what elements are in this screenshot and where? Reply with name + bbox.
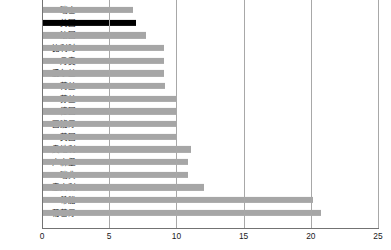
bar [43,7,133,13]
bar-chart: 瑞士美国法国比利时丹麦爱尔兰荷兰芬兰德国西班牙英国奥地利卢森堡瑞典意大利希腊葡萄… [0,0,391,250]
x-tick-label-25: 25 [373,231,382,241]
bar-row: 比利时 [0,42,391,55]
bar [43,159,188,165]
bar [43,32,146,38]
gridline-10 [176,0,177,228]
bar-row: 德国 [0,105,391,118]
gridline-5 [109,0,110,228]
bar-row: 法国 [0,29,391,42]
bar-rows: 瑞士美国法国比利时丹麦爱尔兰荷兰芬兰德国西班牙英国奥地利卢森堡瑞典意大利希腊葡萄… [0,0,391,228]
y-axis-line [42,0,43,228]
bar [43,184,204,190]
gridline-25 [378,0,379,228]
bar-row: 瑞士 [0,4,391,17]
bar-row: 英国 [0,130,391,143]
bar-row: 西班牙 [0,118,391,131]
bar [43,197,313,203]
bar-row: 葡萄牙 [0,206,391,219]
x-tick-label-15: 15 [239,231,248,241]
bar-row: 意大利 [0,181,391,194]
gridline-20 [311,0,312,228]
bar [43,45,164,51]
x-tick-label-5: 5 [107,231,112,241]
x-tick-label-0: 0 [40,231,45,241]
x-axis-tick-labels: 0510152025 [0,231,391,247]
bar-row: 爱尔兰 [0,67,391,80]
bar [43,146,191,152]
bar-row: 希腊 [0,194,391,207]
x-axis-line [42,228,379,229]
x-tick-label-10: 10 [172,231,181,241]
bar [43,210,321,216]
x-tick-label-20: 20 [306,231,315,241]
bar-row: 美国 [0,16,391,29]
bar-row: 瑞典 [0,168,391,181]
bar-row: 卢森堡 [0,156,391,169]
bar-row: 荷兰 [0,80,391,93]
bar-row: 芬兰 [0,92,391,105]
bar-row: 丹麦 [0,54,391,67]
bar-highlighted [43,20,136,26]
bar [43,58,164,64]
bar [43,172,188,178]
bar [43,83,165,89]
bar-row: 奥地利 [0,143,391,156]
bar [43,70,164,76]
gridline-15 [244,0,245,228]
